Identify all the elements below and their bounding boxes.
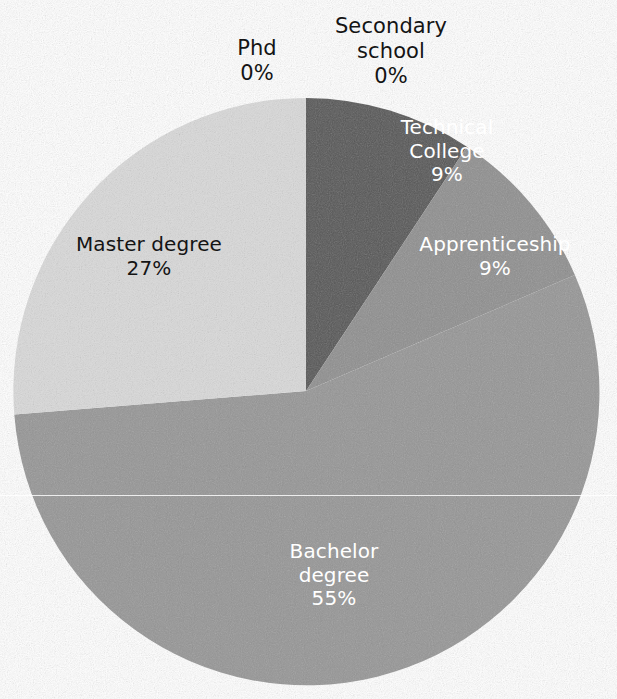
slice-label-phd: Phd 0% (198, 36, 316, 86)
slice-label-apprenticeship: Apprenticeship 9% (402, 233, 588, 280)
slice-label-secondary-school-line2: school (310, 39, 472, 64)
slice-label-master-degree-name: Master degree (51, 233, 247, 257)
slice-label-technical-college: Technical College 9% (381, 116, 513, 187)
slice-label-apprenticeship-value: 9% (402, 257, 588, 281)
slice-label-bachelor-degree-value: 55% (263, 587, 405, 611)
slice-label-bachelor-degree: Bachelor degree 55% (263, 540, 405, 611)
slice-label-secondary-school-line1: Secondary (310, 14, 472, 39)
slice-label-secondary-school: Secondary school 0% (310, 14, 472, 88)
slice-label-technical-college-line1: Technical (381, 116, 513, 140)
slice-label-phd-value: 0% (198, 61, 316, 86)
slice-label-phd-name: Phd (198, 36, 316, 61)
slice-label-bachelor-degree-line2: degree (263, 564, 405, 588)
slice-label-bachelor-degree-line1: Bachelor (263, 540, 405, 564)
slice-label-technical-college-value: 9% (381, 163, 513, 187)
slice-label-master-degree: Master degree 27% (51, 233, 247, 280)
pie-chart: Phd 0% Secondary school 0% Technical Col… (0, 0, 617, 699)
slice-label-master-degree-value: 27% (51, 257, 247, 281)
slice-label-apprenticeship-name: Apprenticeship (402, 233, 588, 257)
slice-label-technical-college-line2: College (381, 140, 513, 164)
slice-label-secondary-school-value: 0% (310, 64, 472, 89)
